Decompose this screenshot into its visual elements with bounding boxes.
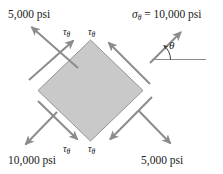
normal-stress-label-top-left: 5,000 psi bbox=[8, 9, 50, 21]
tau-subscript: θ bbox=[67, 147, 71, 156]
sigma-equation-value: = 10,000 psi bbox=[141, 8, 201, 20]
tau-label-top-right: τθ bbox=[88, 27, 95, 38]
tau-subscript: θ bbox=[67, 30, 71, 39]
normal-arrow-bottom-right bbox=[139, 111, 171, 144]
figure-canvas bbox=[0, 0, 223, 174]
tau-subscript: θ bbox=[92, 147, 96, 156]
tau-label-bottom-right: τθ bbox=[88, 144, 95, 155]
rotated-square-element bbox=[38, 40, 143, 141]
theta-angle-label: θ bbox=[169, 40, 174, 51]
normal-stress-label-bottom-left: 10,000 psi bbox=[8, 155, 56, 167]
normal-arrow-top-left bbox=[32, 27, 79, 68]
normal-arrow-bottom-left bbox=[26, 112, 58, 145]
tau-subscript: θ bbox=[92, 30, 96, 39]
tau-label-bottom-left: τθ bbox=[63, 144, 70, 155]
normal-stress-label-bottom-right: 5,000 psi bbox=[141, 155, 183, 167]
stress-element-figure: 5,000 psi σθ = 10,000 psi θ τθ τθ τθ τθ … bbox=[0, 0, 223, 174]
sigma-theta-label: σθ = 10,000 psi bbox=[132, 9, 202, 21]
tau-label-top-left: τθ bbox=[63, 27, 70, 38]
